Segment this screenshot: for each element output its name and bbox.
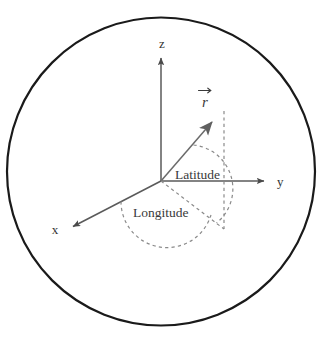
position-vector-label-group: r bbox=[199, 88, 211, 110]
x-axis-label: x bbox=[52, 222, 59, 237]
y-axis-label: y bbox=[277, 174, 284, 189]
diagram-canvas: z y x r Latitude Longitude bbox=[0, 0, 325, 339]
position-vector-label: r bbox=[202, 94, 208, 110]
latitude-label: Latitude bbox=[175, 167, 220, 182]
longitude-label: Longitude bbox=[133, 205, 189, 220]
latitude-arc bbox=[194, 145, 233, 223]
vector-arrow-accent-icon bbox=[199, 88, 211, 93]
z-axis-label: z bbox=[159, 36, 165, 51]
spherical-coordinates-diagram: z y x r Latitude Longitude bbox=[0, 0, 325, 339]
